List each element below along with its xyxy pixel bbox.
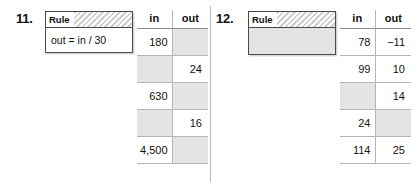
in-out-table: in out 78 −11 99 10 14 24 xyxy=(340,10,411,164)
worksheet-page: 11. Rule out = in / 30 in out 180 xyxy=(0,0,418,185)
table-row: 4,500 xyxy=(137,136,208,163)
problem-number: 12. xyxy=(216,11,233,26)
rule-text[interactable]: out = in / 30 xyxy=(46,28,132,52)
cell-out[interactable]: 16 xyxy=(172,109,208,136)
cell-out[interactable] xyxy=(172,136,208,163)
rule-header-label: Rule xyxy=(46,12,74,27)
table-row: 114 25 xyxy=(340,136,411,163)
rule-box[interactable]: Rule xyxy=(248,11,336,55)
cell-out[interactable]: 24 xyxy=(172,55,208,82)
table-row: 78 −11 xyxy=(340,28,411,55)
column-header-in: in xyxy=(137,10,172,28)
table-header-row: in out xyxy=(340,10,411,28)
rule-text[interactable] xyxy=(249,28,335,54)
table-row: 630 xyxy=(137,82,208,109)
cell-in[interactable]: 180 xyxy=(137,28,172,55)
table-header-row: in out xyxy=(137,10,208,28)
in-out-table: in out 180 24 630 16 xyxy=(137,10,208,164)
cell-in[interactable]: 24 xyxy=(340,109,375,136)
table-row: 14 xyxy=(340,82,411,109)
cell-in[interactable]: 114 xyxy=(340,136,375,163)
cell-in[interactable]: 99 xyxy=(340,55,375,82)
cell-out[interactable] xyxy=(172,28,208,55)
cell-out[interactable]: −11 xyxy=(375,28,411,55)
cell-out[interactable] xyxy=(172,82,208,109)
cell-in[interactable]: 78 xyxy=(340,28,375,55)
table-row: 99 10 xyxy=(340,55,411,82)
problem-12: 12. Rule in out 78 −11 99 xyxy=(213,0,418,185)
cell-out[interactable]: 10 xyxy=(375,55,411,82)
table-row: 16 xyxy=(137,109,208,136)
table-row: 24 xyxy=(340,109,411,136)
rule-header: Rule xyxy=(249,12,335,28)
column-header-in: in xyxy=(340,10,375,28)
cell-in[interactable] xyxy=(137,55,172,82)
cell-out[interactable] xyxy=(375,109,411,136)
cell-out[interactable]: 25 xyxy=(375,136,411,163)
cell-in[interactable] xyxy=(137,109,172,136)
column-header-out: out xyxy=(172,10,208,28)
table-row: 180 xyxy=(137,28,208,55)
problem-divider xyxy=(210,6,211,182)
cell-in[interactable]: 4,500 xyxy=(137,136,172,163)
problem-number: 11. xyxy=(16,11,33,26)
rule-header-label: Rule xyxy=(249,12,277,27)
cell-in[interactable]: 630 xyxy=(137,82,172,109)
rule-box[interactable]: Rule out = in / 30 xyxy=(45,11,133,53)
column-header-out: out xyxy=(375,10,411,28)
problem-11: 11. Rule out = in / 30 in out 180 xyxy=(0,0,208,185)
rule-header: Rule xyxy=(46,12,132,28)
cell-in[interactable] xyxy=(340,82,375,109)
table-row: 24 xyxy=(137,55,208,82)
cell-out[interactable]: 14 xyxy=(375,82,411,109)
